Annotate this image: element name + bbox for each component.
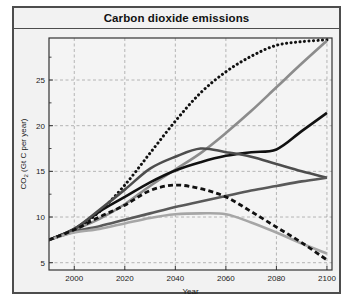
chart-title-bar: Carbon dioxide emissions — [14, 8, 339, 29]
chart-figure: Carbon dioxide emissions 200020202040206… — [12, 6, 341, 294]
x-tick-label: 2000 — [65, 274, 83, 283]
x-tick-label: 2080 — [268, 274, 286, 283]
x-tick-label: 2060 — [217, 274, 235, 283]
x-tick-label: 2040 — [166, 274, 184, 283]
page-title: Carbon dioxide emissions — [104, 12, 250, 24]
chart-plot-area: 200020202040206020802100510152025YearCO2… — [14, 29, 339, 294]
x-axis-title: Year — [182, 287, 199, 294]
x-tick-label: 2020 — [116, 274, 134, 283]
y-tick-label: 25 — [36, 76, 45, 85]
y-tick-label: 20 — [36, 122, 45, 131]
y-tick-label: 5 — [41, 259, 46, 268]
x-tick-label: 2100 — [318, 274, 336, 283]
y-tick-label: 15 — [36, 167, 45, 176]
y-tick-label: 10 — [36, 213, 45, 222]
y-axis-title: CO2 (Gt C per year) — [19, 118, 29, 189]
